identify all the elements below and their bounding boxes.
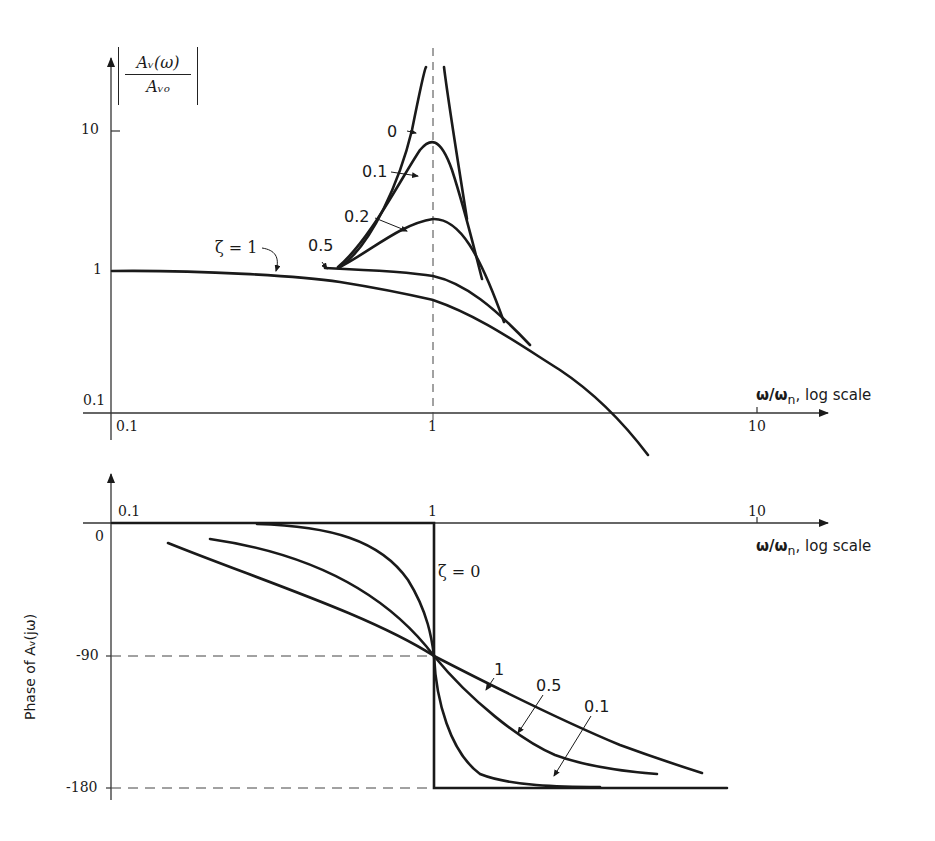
phase-xtick-10: 10	[748, 503, 766, 519]
mag-curve-zeta-0-right	[444, 67, 467, 219]
phase-plot	[83, 474, 828, 800]
phase-xlabel-sub: n	[788, 543, 796, 558]
magnitude-plot	[83, 48, 828, 455]
mag-ytick-10: 10	[81, 121, 99, 137]
mag-ytick-0.1: 0.1	[83, 392, 105, 408]
mag-xtick-1: 1	[428, 418, 437, 434]
mag-ytick-1: 1	[93, 261, 102, 277]
mag-xlabel-sub: n	[788, 392, 796, 407]
magnitude-ylabel: Aᵥ(ω) Aᵥₒ	[118, 47, 198, 105]
phase-label-zeta-0.5: 0.5	[536, 676, 561, 695]
mag-label-zeta-0: 0	[387, 122, 397, 141]
phase-xtick-1: 1	[428, 503, 437, 519]
phase-ytick-minus90: -90	[76, 647, 99, 663]
mag-xlabel: ω/ωn, log scale	[756, 386, 871, 407]
mag-xtick-0.1: 0.1	[116, 418, 138, 434]
phase-xlabel: ω/ωn, log scale	[756, 537, 871, 558]
mag-label-zeta-1: ζ = 1	[215, 238, 257, 257]
mag-curve-zeta-1	[112, 271, 648, 455]
phase-label-zeta-0: ζ = 0	[438, 562, 480, 581]
phase-xlabel-suffix: , log scale	[796, 537, 872, 555]
phase-xtick-0.1: 0.1	[118, 503, 140, 519]
phase-ytick-minus180: -180	[66, 779, 97, 795]
mag-leaders	[262, 131, 418, 271]
magnitude-curves	[112, 67, 648, 455]
phase-label-zeta-0.1: 0.1	[584, 697, 609, 716]
mag-xtick-10: 10	[748, 418, 766, 434]
mag-xlabel-ratio: ω/ω	[756, 386, 788, 404]
mag-xlabel-suffix: , log scale	[796, 386, 872, 404]
phase-label-zeta-1: 1	[494, 660, 504, 679]
mag-label-zeta-0.5: 0.5	[308, 236, 333, 255]
magnitude-ylabel-denominator: Aᵥₒ	[119, 75, 197, 96]
phase-ytick-0: 0	[95, 528, 104, 544]
magnitude-ylabel-numerator: Aᵥ(ω)	[125, 47, 191, 75]
bode-figure	[0, 0, 935, 841]
mag-label-zeta-0.1: 0.1	[362, 162, 387, 181]
phase-ylabel: Phase of Aᵥ(jω)	[22, 614, 38, 720]
mag-label-zeta-0.2: 0.2	[344, 207, 369, 226]
phase-xlabel-ratio: ω/ω	[756, 537, 788, 555]
